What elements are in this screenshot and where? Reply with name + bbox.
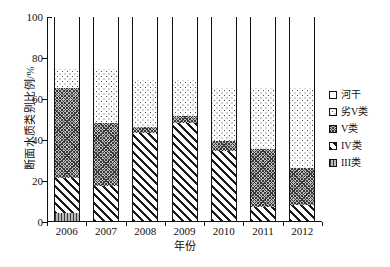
x-axis-tick-label: 2007 (95, 225, 117, 237)
legend: 河干劣V类V类IV类III类 (329, 86, 368, 171)
bar-segment-河干 (94, 16, 118, 69)
legend-label: IV类 (341, 141, 362, 151)
x-axis-tick (322, 222, 323, 226)
y-axis-tick-label: 40 (32, 134, 43, 146)
bar-2006 (54, 17, 80, 222)
legend-label: 河干 (341, 90, 361, 100)
bar-2008 (132, 17, 158, 222)
bar-segment-IV类 (173, 123, 197, 221)
bar-segment-IV类 (290, 205, 314, 221)
legend-item-river-dry: 河干 (329, 86, 368, 103)
plot-area: 0204060801002006200720082009201020112012 (47, 17, 322, 222)
y-axis-tick-label: 60 (32, 93, 43, 105)
legend-item-worse-than-v: 劣V类 (329, 103, 368, 120)
legend-swatch-icon (329, 125, 337, 133)
legend-label: III类 (341, 158, 361, 168)
bar-segment-劣V类 (290, 88, 314, 168)
legend-swatch-icon (329, 142, 337, 150)
x-axis-tick-label: 2008 (134, 225, 156, 237)
bar-segment-劣V类 (173, 80, 197, 117)
bar-segment-劣V类 (94, 69, 118, 122)
x-axis-tick (86, 222, 87, 226)
x-axis-tick (283, 222, 284, 226)
bar-segment-劣V类 (133, 80, 157, 127)
bar-segment-V类 (290, 168, 314, 205)
bar-segment-V类 (212, 141, 236, 151)
legend-swatch-icon (329, 108, 337, 116)
bar-segment-河干 (133, 16, 157, 80)
bar-segment-IV类 (94, 186, 118, 221)
bar-segment-IV类 (251, 207, 275, 221)
bar-segment-劣V类 (251, 88, 275, 150)
x-axis-tick (165, 222, 166, 226)
bar-segment-劣V类 (55, 69, 79, 87)
y-axis-tick-label: 20 (32, 175, 43, 187)
bar-2009 (172, 17, 198, 222)
bar-2011 (250, 17, 276, 222)
bar-segment-V类 (173, 116, 197, 122)
x-axis-tick (204, 222, 205, 226)
bar-segment-劣V类 (212, 88, 236, 141)
legend-label: 劣V类 (341, 107, 368, 117)
bar-2012 (289, 17, 315, 222)
bar-segment-河干 (290, 16, 314, 88)
bar-segment-河干 (173, 16, 197, 80)
legend-label: V类 (341, 124, 358, 134)
x-axis-tick (47, 222, 48, 226)
y-axis-title: 断面水质类别比例/% (21, 48, 37, 188)
y-axis-tick-label: 80 (32, 52, 43, 64)
bar-segment-河干 (55, 16, 79, 69)
bar-segment-III类 (55, 213, 79, 221)
bar-segment-河干 (212, 16, 236, 88)
bar-segment-IV类 (133, 133, 157, 221)
x-axis-tick-label: 2010 (213, 225, 235, 237)
bar-segment-IV类 (212, 151, 236, 221)
y-axis-tick (47, 17, 52, 18)
legend-item-class-iv: IV类 (329, 137, 368, 154)
bar-2010 (211, 17, 237, 222)
legend-swatch-icon (329, 159, 337, 167)
x-axis-tick-label: 2011 (252, 225, 274, 237)
y-axis-line (47, 17, 48, 222)
bar-segment-V类 (55, 88, 79, 178)
x-axis-tick-label: 2006 (56, 225, 78, 237)
bar-segment-IV类 (55, 178, 79, 213)
x-axis-tick-label: 2012 (291, 225, 313, 237)
bar-segment-V类 (133, 127, 157, 133)
legend-item-class-iii: III类 (329, 154, 368, 171)
x-axis-title: 年份 (47, 237, 322, 253)
y-axis-tick-label: 0 (38, 216, 44, 228)
y-axis-tick-label: 100 (27, 11, 44, 23)
bar-segment-V类 (94, 123, 118, 187)
bar-segment-河干 (251, 16, 275, 88)
bar-2007 (93, 17, 119, 222)
legend-item-class-v: V类 (329, 120, 368, 137)
bar-segment-V类 (251, 149, 275, 206)
stacked-bar-chart: 断面水质类别比例/% 02040608010020062007200820092… (0, 0, 390, 267)
x-axis-tick (126, 222, 127, 226)
x-axis-tick (243, 222, 244, 226)
legend-swatch-icon (329, 91, 337, 99)
x-axis-tick-label: 2009 (174, 225, 196, 237)
